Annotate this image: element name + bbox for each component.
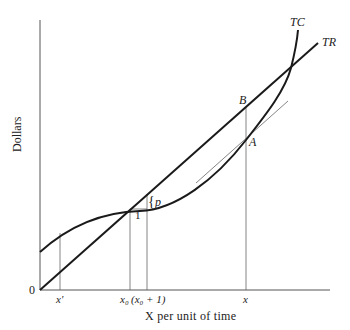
- x0-plus-1-tick-label: (x₀ + 1): [131, 293, 165, 305]
- step-rise-label: p: [155, 195, 161, 210]
- x0-tick-label: x₀: [120, 293, 129, 305]
- origin-label: 0: [29, 283, 35, 298]
- step-rise-brace: {: [148, 194, 155, 210]
- diagram-canvas: [0, 0, 350, 330]
- tc-curve: [40, 30, 298, 252]
- tr-line: [40, 43, 318, 290]
- x-prime-tick-label: x′: [56, 293, 63, 305]
- x-axis-label: X per unit of time: [145, 309, 236, 324]
- tr-label: TR: [322, 35, 336, 50]
- x-tick-label: x: [243, 293, 248, 305]
- y-axis-label: Dollars: [10, 117, 25, 152]
- tc-label: TC: [290, 15, 305, 30]
- tangent-at-a: [196, 101, 288, 183]
- point-b-label: B: [239, 93, 246, 108]
- point-a-label: A: [249, 135, 256, 150]
- step-run-label: 1: [135, 209, 141, 221]
